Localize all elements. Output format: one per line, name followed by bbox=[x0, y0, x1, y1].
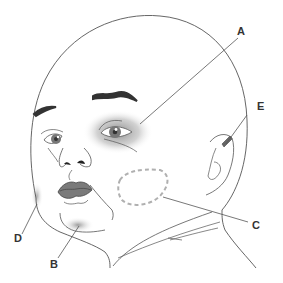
neck-line-2 bbox=[118, 222, 220, 258]
infant-face-diagram: A B C D E bbox=[0, 0, 283, 283]
leader-line-e bbox=[226, 115, 247, 144]
leader-line-a bbox=[140, 38, 238, 124]
right-eyebrow bbox=[93, 92, 137, 101]
ear-outline bbox=[206, 135, 234, 195]
label-b: B bbox=[50, 259, 58, 270]
nose-right bbox=[80, 148, 91, 167]
right-nostril bbox=[77, 160, 85, 164]
face-illustration bbox=[0, 0, 283, 283]
label-c: C bbox=[252, 220, 260, 231]
left-under-eye bbox=[48, 148, 58, 162]
left-eyebrow bbox=[34, 107, 56, 116]
leader-line-d bbox=[22, 204, 37, 234]
philtrum bbox=[69, 170, 72, 180]
shading-region-b bbox=[62, 217, 94, 233]
label-a: A bbox=[237, 26, 245, 37]
cheek-line bbox=[90, 185, 113, 220]
ear-inner bbox=[208, 148, 221, 179]
neck-line-1 bbox=[113, 212, 212, 266]
lower-lip-contour bbox=[64, 200, 88, 204]
leader-line-c bbox=[163, 197, 248, 222]
dashed-region-c bbox=[118, 169, 167, 204]
left-lid-crease bbox=[41, 130, 63, 134]
jaw-outline bbox=[36, 198, 110, 268]
label-e: E bbox=[257, 101, 264, 112]
label-d: D bbox=[14, 233, 22, 244]
left-eye-highlight bbox=[57, 136, 59, 138]
right-eye-highlight bbox=[115, 128, 118, 131]
